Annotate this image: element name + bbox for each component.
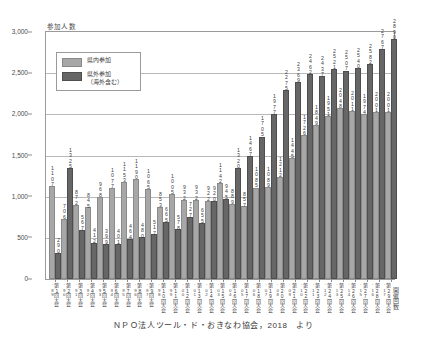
bar-value-label: 1705 [259, 115, 264, 136]
bar-value-label: 2001 [385, 91, 390, 112]
bar-value-label: 480 [139, 222, 144, 238]
x-axis-label-text: 第14回大会'02 [203, 283, 213, 313]
x-axis-label-text: 第21回大会'09 [286, 283, 296, 313]
x-axis-label-year: '94 [109, 283, 114, 297]
bar-value-label: 853 [157, 191, 162, 207]
x-axis-label-year: '93 [97, 283, 102, 297]
bar-value-label: 1325 [67, 147, 72, 168]
bar-value-label: 401 [115, 228, 120, 244]
x-axis-label-text: 第22回大会'10 [298, 283, 308, 313]
legend-label-inner: 県内参加 [87, 57, 111, 65]
x-axis-label-year: '01 [192, 283, 197, 297]
x-axis-label-text: 第12回大会'00 [179, 283, 189, 313]
x-axis-label-text: 第8回大会'96 [132, 283, 142, 307]
bar-value-label: 1974 [361, 93, 366, 114]
bar-value-label: 922 [205, 185, 210, 201]
x-axis-label-year: '08 [275, 283, 280, 297]
y-axis-tickmark [28, 31, 32, 32]
x-axis-label-text: 第7回大会'95 [120, 283, 130, 307]
bar-value-label: 2001 [373, 91, 378, 112]
bar-value-label: 1077 [109, 167, 114, 188]
bar-group-item: 19512521 [325, 32, 337, 279]
bar-value-label: 889 [229, 188, 234, 204]
legend-item-inner: 県内参加 [62, 57, 135, 67]
bar-value-label: 1320 [235, 147, 240, 168]
bar-value-label: 857 [241, 191, 246, 207]
bar-group-item: 10851705 [253, 32, 265, 279]
x-axis-tickmark [283, 279, 284, 282]
bar-value-label: 412 [91, 227, 96, 243]
bar-group-item: 20482507 [337, 32, 349, 279]
x-axis-label-text: 第2回大会'90 [61, 283, 71, 307]
bar-group-item: 10891977 [265, 32, 277, 279]
x-axis-label-year: '02 [204, 283, 209, 297]
bar-value-label: 932 [193, 184, 198, 200]
x-axis-label-year: '04 [228, 283, 233, 297]
x-axis-tickmark [55, 279, 56, 282]
x-axis-tickmark [139, 279, 140, 282]
y-axis-tickmark [28, 113, 32, 114]
x-axis-label-text: 第23回大会'11 [310, 283, 320, 313]
x-axis-tickmark [271, 279, 272, 282]
bar-group-item: 853665 [157, 32, 169, 279]
x-axis-label-year: '91 [74, 283, 79, 297]
bar-group-item: 12122275 [277, 32, 289, 279]
bar-value-label: 845 [85, 192, 90, 208]
bar-group-item: 1065517 [145, 32, 157, 279]
y-axis-tick: 500 [0, 233, 28, 240]
x-axis-tickmark [367, 279, 368, 282]
y-axis-tickmark [28, 278, 32, 279]
legend-label-outer: 県外参加（海外含む） [87, 71, 124, 86]
x-axis-tickmark [199, 279, 200, 282]
bar-value-label: 2275 [283, 69, 288, 90]
x-axis-label-year: '98 [157, 283, 162, 297]
x-axis-tickmark [355, 279, 356, 282]
x-axis-tickmark [379, 279, 380, 282]
bar-value-label: 2507 [343, 49, 348, 70]
bar-value-label: 578 [175, 214, 180, 230]
y-axis-tick: 0 [0, 275, 28, 282]
bar-value-label: 2521 [331, 48, 336, 69]
legend-swatch-inner [62, 58, 82, 67]
y-axis-tick: 1,500 [0, 151, 28, 158]
x-axis-label-year: '07 [263, 283, 268, 297]
x-axis-label-text: 第26回大会'14 [345, 283, 355, 313]
y-axis-tick: 1,000 [0, 192, 28, 199]
bar-value-label: 1445 [289, 137, 294, 158]
bar-group-item: 8571467 [241, 32, 253, 279]
bar-value-label: 1212 [277, 156, 282, 177]
bar-value-label: 2048 [337, 87, 342, 108]
x-axis-tickmark [91, 279, 92, 282]
x-axis-label-text: 第16回大会'04 [227, 283, 237, 313]
bar-value-label: 2582 [367, 43, 372, 64]
bar-value-label: 2890 [391, 18, 396, 39]
bar-value-label: 1089 [265, 166, 270, 187]
bar-group-item: 19742582 [361, 32, 373, 279]
x-axis-label-year: '17 [382, 283, 387, 297]
x-axis-label-year: '09 [287, 283, 292, 297]
source-caption: ＮＰＯ法人ツール・ド・おきなわ協会，2018 より [0, 319, 426, 330]
x-axis-tickmark [187, 279, 188, 282]
x-axis-label-year: '15 [358, 283, 363, 297]
x-axis-label-year: '89 [50, 283, 55, 297]
x-axis-label-text: 第11回大会'99 [168, 283, 178, 313]
x-axis-label-year: '05 [240, 283, 245, 297]
x-axis-label-year: '92 [86, 283, 91, 297]
bar-value-label: 2767 [379, 28, 384, 49]
x-axis-tickmark [331, 279, 332, 282]
x-axis-tickmark [235, 279, 236, 282]
bar-value-label: 2011 [349, 90, 354, 111]
bar-group-item: 1142945 [217, 32, 229, 279]
bar-value-label: 1085 [253, 166, 258, 187]
y-axis-tick: 2,000 [0, 110, 28, 117]
y-axis-tickmark [28, 196, 32, 197]
bar-value-label: 655 [199, 207, 204, 223]
bar-value-label: 2462 [307, 53, 312, 74]
bar-group-item: 20012767 [373, 32, 385, 279]
bar-value-label: 2540 [355, 47, 360, 68]
x-axis-label-text: 第29回大会'17 [381, 283, 391, 313]
x-axis-title: 開催回数 [392, 287, 398, 309]
x-axis-tickmark [295, 279, 296, 282]
bar-value-label: 1190 [133, 158, 138, 179]
x-axis-label-year: '96 [133, 283, 138, 297]
